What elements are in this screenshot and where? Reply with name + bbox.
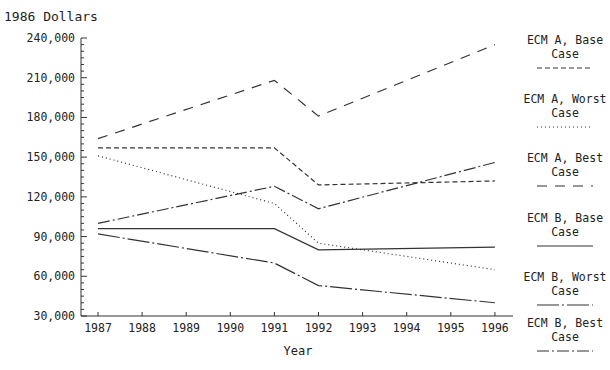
y-tick-label: 210,000 — [27, 71, 76, 85]
y-tick-label: 120,000 — [27, 190, 76, 204]
legend-swatch-dotted — [537, 124, 593, 130]
legend-label: Case — [520, 47, 610, 61]
legend-item-ecm-b-base: ECM B, Base Case — [520, 211, 610, 249]
legend-item-ecm-a-base: ECM A, Base Case — [520, 33, 610, 71]
legend-item-ecm-b-worst: ECM B, Worst Case — [520, 270, 610, 308]
line-chart: 30,00060,00090,000120,000150,000180,0002… — [0, 0, 610, 370]
legend-label: Case — [520, 225, 610, 239]
y-tick-label: 150,000 — [27, 150, 76, 164]
series-line-ecm-b-base-case — [98, 229, 495, 250]
x-tick-label: 1995 — [437, 321, 465, 335]
legend-item-ecm-b-best: ECM B, Best Case — [520, 316, 610, 354]
legend-swatch-long-dash — [537, 183, 593, 189]
legend-label: ECM B, Worst — [520, 270, 610, 284]
legend-label: ECM B, Base — [520, 211, 610, 225]
x-axis-title: Year — [284, 344, 313, 358]
legend-label: Case — [520, 330, 610, 344]
x-tick-label: 1990 — [216, 321, 244, 335]
x-tick-label: 1992 — [305, 321, 333, 335]
series-line-ecm-a-best-case — [98, 45, 495, 139]
y-tick-label: 240,000 — [27, 31, 76, 45]
x-tick-label: 1991 — [261, 321, 289, 335]
y-axis: 30,00060,00090,000120,000150,000180,0002… — [27, 31, 87, 323]
legend-label: Case — [520, 106, 610, 120]
legend-item-ecm-a-worst: ECM A, Worst Case — [520, 92, 610, 130]
legend-swatch-solid — [537, 243, 593, 249]
legend-swatch-short-dash — [537, 65, 593, 71]
series-line-ecm-a-base-case — [98, 148, 495, 185]
x-axis: 1987198819891990199119921993199419951996 — [81, 312, 513, 335]
x-tick-label: 1988 — [128, 321, 156, 335]
series-lines — [98, 45, 495, 303]
legend-label: ECM A, Best — [520, 151, 610, 165]
x-tick-label: 1987 — [84, 321, 112, 335]
legend-label: Case — [520, 284, 610, 298]
legend-swatch-dash-dash-dot — [537, 348, 593, 354]
x-tick-label: 1993 — [349, 321, 377, 335]
x-tick-label: 1989 — [172, 321, 200, 335]
legend-label: Case — [520, 165, 610, 179]
legend-label: ECM A, Worst — [520, 92, 610, 106]
series-line-ecm-a-worst-case — [98, 156, 495, 270]
y-tick-label: 90,000 — [33, 230, 75, 244]
y-tick-label: 60,000 — [33, 269, 75, 283]
legend-swatch-long-dash-dot — [537, 302, 593, 308]
x-tick-label: 1996 — [481, 321, 509, 335]
series-line-ecm-b-best-case — [98, 162, 495, 223]
y-tick-label: 180,000 — [27, 110, 76, 124]
legend-label: ECM B, Best — [520, 316, 610, 330]
y-tick-label: 30,000 — [33, 309, 75, 323]
legend-item-ecm-a-best: ECM A, Best Case — [520, 151, 610, 189]
x-tick-label: 1994 — [393, 321, 421, 335]
legend-label: ECM A, Base — [520, 33, 610, 47]
series-line-ecm-b-worst-case — [98, 234, 495, 303]
